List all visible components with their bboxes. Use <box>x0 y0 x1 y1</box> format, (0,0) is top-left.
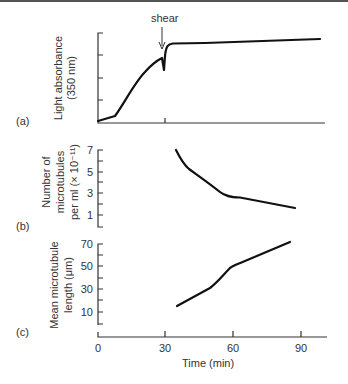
panel-b: (b) Number of microtubules per ml (× 10⁻… <box>16 144 295 232</box>
panel-c-yaxis <box>98 244 103 325</box>
shear-annotation: shear <box>151 12 179 24</box>
x-axis-label: Time (min) <box>182 357 234 369</box>
panel-c-ticks <box>98 255 103 324</box>
panel-c-ylabel-line2: length (μm) <box>62 257 74 313</box>
panel-c-ytick-70: 70 <box>81 238 93 250</box>
xtick-30: 30 <box>159 342 171 354</box>
x-axis-ticks <box>165 331 301 337</box>
panel-c-ylabel-line1: Mean microtubule <box>48 241 60 328</box>
panel-b-ylabel-line2: microtubules <box>54 150 66 213</box>
panel-b-ytick-7: 7 <box>87 144 93 156</box>
absorbance-curve <box>98 39 320 121</box>
panel-c-ytick-50: 50 <box>81 260 93 272</box>
panel-a-axes <box>98 33 325 123</box>
xtick-60: 60 <box>227 342 239 354</box>
panel-c: (c) Mean microtubule length (μm) 70 50 3… <box>16 238 327 369</box>
xtick-90: 90 <box>295 342 307 354</box>
panel-a: (a) Light absorbance (350 nm) shear <box>16 12 325 127</box>
panel-b-ytick-5: 5 <box>87 166 93 178</box>
panel-b-ytick-1: 1 <box>87 209 93 221</box>
panel-c-label: (c) <box>16 326 29 338</box>
panel-b-label: (b) <box>16 220 29 232</box>
mean-length-curve <box>177 242 290 306</box>
microtubule-number-curve <box>176 150 295 208</box>
panel-b-ytick-3: 3 <box>87 187 93 199</box>
panel-c-ytick-30: 30 <box>81 283 93 295</box>
panel-b-ylabel-line1: Number of <box>40 155 52 207</box>
panel-a-ylabel-line1: Light absorbance <box>52 36 64 120</box>
panel-c-ytick-10: 10 <box>81 306 93 318</box>
xtick-0: 0 <box>95 342 101 354</box>
panel-b-ylabel-line3: per ml (× 10⁻¹¹) <box>68 144 80 220</box>
panel-a-label: (a) <box>16 115 29 127</box>
panel-b-ticks <box>98 161 103 215</box>
x-axis <box>98 332 327 337</box>
figure: (a) Light absorbance (350 nm) shear (b) … <box>0 0 348 384</box>
panel-a-ylabel-line2: (350 nm) <box>65 56 77 100</box>
